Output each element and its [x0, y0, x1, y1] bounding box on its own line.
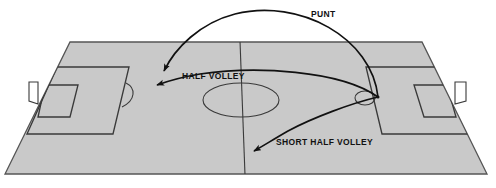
pitch-surface	[5, 42, 487, 174]
kick-origin-point	[377, 96, 380, 99]
label-punt: PUNT	[311, 9, 336, 19]
soccer-kick-diagram: PUNT HALF VOLLEY SHORT HALF VOLLEY	[0, 0, 496, 188]
goal-left	[29, 82, 38, 104]
label-short-half-volley: SHORT HALF VOLLEY	[276, 137, 373, 147]
label-half-volley: HALF VOLLEY	[182, 71, 245, 81]
field-illustration	[0, 0, 496, 188]
goal-right	[455, 82, 466, 104]
